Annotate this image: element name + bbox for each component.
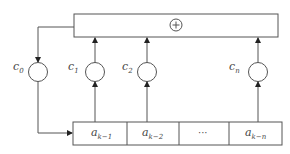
register-cell-a-k-2: ak−2 [142,126,164,141]
register-cell-a-k-n: ak−n [245,126,267,141]
lfsr-diagram: c0 c1 c2 cn ak−1 ak−2 ··· ak−n [0,0,290,154]
register-cell-a-k-1: ak−1 [91,126,112,141]
coefficient-c1-circle [86,63,105,82]
coefficient-c0-circle [29,63,48,82]
coefficient-c2-circle [138,63,157,82]
label-cn: cn [229,60,240,75]
input-line [38,82,72,134]
label-c2: c2 [122,60,133,75]
label-c0: c0 [13,60,24,75]
label-c1: c1 [68,60,79,75]
coefficient-cn-circle [249,63,268,82]
register-cell-ellipsis: ··· [198,127,208,138]
feedback-line [38,27,74,62]
